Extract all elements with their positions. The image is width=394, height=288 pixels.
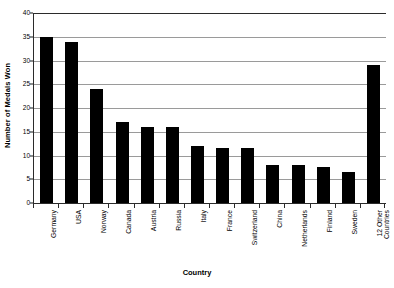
bar-chart: Number of Medals Won 0510152025303540 Ge… [0, 0, 394, 288]
bar [342, 172, 355, 203]
bar [292, 165, 305, 203]
bar [191, 146, 204, 203]
bar [166, 127, 179, 203]
bar [367, 65, 380, 203]
bar [90, 89, 103, 203]
y-axis-tick-labels: 0510152025303540 [14, 0, 33, 288]
bar [40, 37, 53, 203]
x-axis-category-label: Norway [100, 208, 114, 266]
bar [317, 167, 330, 203]
y-axis-tick-label: 20 [23, 105, 30, 112]
x-axis-title: Country [0, 268, 394, 277]
bar [241, 148, 254, 203]
x-axis-category-label: 12 Other Countries [376, 208, 390, 266]
y-axis-tick-label: 30 [23, 57, 30, 64]
x-axis-category-label: France [226, 208, 240, 266]
bar [216, 148, 229, 203]
x-axis-category-label: Russia [175, 208, 189, 266]
x-axis-category-label: Netherlands [301, 208, 315, 266]
x-axis-category-label: Germany [50, 208, 64, 266]
bar [141, 127, 154, 203]
x-axis-category-label: Switzerland [251, 208, 265, 266]
x-axis-category-label: Italy [200, 208, 214, 266]
bar [116, 122, 129, 203]
bar [266, 165, 279, 203]
y-axis-tick-label: 15 [23, 129, 30, 136]
bar [65, 42, 78, 204]
plot-area [33, 13, 386, 204]
bar-series [34, 13, 386, 203]
y-axis-title-text: Number of Medals Won [4, 62, 13, 147]
y-axis-tick-label: 40 [23, 10, 30, 17]
y-axis-tick-label: 10 [23, 152, 30, 159]
x-axis-category-labels: GermanyUSANorwayCanadaAustriaRussiaItaly… [33, 208, 385, 266]
x-axis-category-label: Austria [150, 208, 164, 266]
x-axis-category-label: Canada [125, 208, 139, 266]
y-axis-tick-label: 35 [23, 34, 30, 41]
x-axis-category-label: USA [75, 208, 89, 266]
x-axis-category-label: Finland [326, 208, 340, 266]
x-axis-category-label: China [276, 208, 290, 266]
x-axis-category-label: Sweden [351, 208, 365, 266]
y-axis-tick-label: 25 [23, 81, 30, 88]
